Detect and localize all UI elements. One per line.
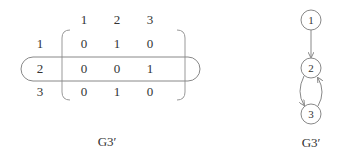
right-bracket [177,30,185,100]
node-2-label: 2 [308,62,314,74]
row-label: 1 [37,36,44,52]
edge-2-3 [300,76,304,105]
graph-caption: G3′ [302,135,321,151]
matrix-cell: 1 [147,61,154,77]
edge-3-2 [318,78,322,106]
row-highlight-oval [21,57,200,81]
col-header: 1 [81,12,88,28]
col-header: 3 [147,12,154,28]
row-label: 2 [37,61,44,77]
matrix-cell: 0 [147,84,154,100]
row-label: 3 [37,84,44,100]
matrix-cell: 0 [147,36,154,52]
node-3-label: 3 [308,108,314,120]
diagram-lines [0,0,340,162]
matrix-cell: 0 [81,61,88,77]
node-1-label: 1 [308,14,314,26]
matrix-cell: 1 [114,84,121,100]
left-bracket [62,30,70,100]
matrix-cell: 0 [114,61,121,77]
matrix-cell: 0 [81,36,88,52]
matrix-caption: G3′ [98,134,117,150]
matrix-cell: 1 [114,36,121,52]
col-header: 2 [114,12,121,28]
matrix-cell: 0 [81,84,88,100]
